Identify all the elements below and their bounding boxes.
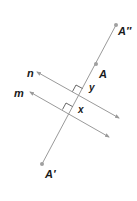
label-line-m: m (14, 87, 24, 99)
reflection-diagram: A″ A A′ n m y x (0, 0, 137, 201)
point-a-prime (40, 162, 44, 166)
line-m (30, 92, 109, 137)
point-a (94, 62, 98, 66)
label-a-prime: A′ (44, 168, 57, 180)
label-a-double-prime: A″ (117, 25, 132, 37)
label-distance-y: y (88, 82, 95, 93)
label-distance-x: x (77, 104, 84, 115)
label-line-n: n (27, 67, 34, 79)
label-a: A (98, 68, 107, 80)
transversal-line (42, 25, 116, 164)
